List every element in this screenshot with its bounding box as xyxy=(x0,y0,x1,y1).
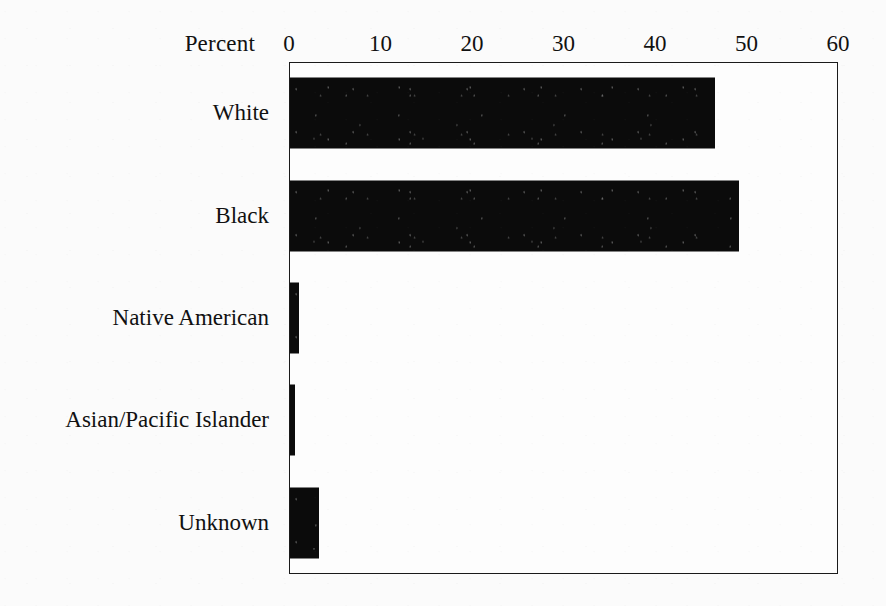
category-axis-labels: WhiteBlackNative AmericanAsian/Pacific I… xyxy=(0,62,279,574)
category-label: Black xyxy=(0,203,269,229)
bar xyxy=(290,385,295,456)
x-axis-tick-label: 10 xyxy=(369,30,392,58)
x-axis-tick-labels: 0102030405060 xyxy=(0,30,886,60)
x-axis-tick-label: 20 xyxy=(461,30,484,58)
bar xyxy=(290,78,715,149)
x-axis-tick-label: 40 xyxy=(644,30,667,58)
bar xyxy=(290,487,319,558)
bar xyxy=(290,283,299,354)
x-axis-tick-label: 50 xyxy=(735,30,758,58)
x-axis-tick-label: 30 xyxy=(552,30,575,58)
x-axis-tick-label: 0 xyxy=(283,30,295,58)
category-label: Unknown xyxy=(0,510,269,536)
bar-series xyxy=(290,63,837,573)
category-label: White xyxy=(0,100,269,126)
x-axis-tick-label: 60 xyxy=(827,30,850,58)
category-label: Native American xyxy=(0,305,269,331)
bar xyxy=(290,180,739,251)
category-label: Asian/Pacific Islander xyxy=(0,407,269,433)
bar-chart-figure: Percent 0102030405060 WhiteBlackNative A… xyxy=(0,0,886,606)
